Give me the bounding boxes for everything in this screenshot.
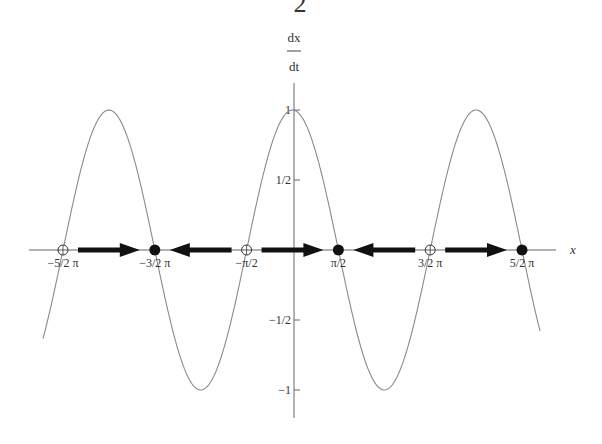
x-tick-label: −π/2 bbox=[236, 256, 258, 270]
header-fragment: 2 bbox=[294, 0, 307, 18]
y-axis-label-numerator: dx bbox=[288, 30, 302, 45]
x-tick-labels: −5/2 π−3/2 π−π/2π/23/2 π5/2 π bbox=[47, 256, 534, 270]
y-axis-label-denominator: dt bbox=[289, 59, 300, 74]
x-axis-label: x bbox=[569, 242, 576, 257]
flow-arrow-left-icon bbox=[353, 243, 415, 257]
flow-arrow-right-icon bbox=[262, 243, 324, 257]
stable-fixed-point-icon bbox=[517, 245, 528, 256]
y-tick-label: −1 bbox=[278, 383, 291, 397]
x-tick-label: 3/2 π bbox=[418, 256, 442, 270]
stable-fixed-point-icon bbox=[149, 245, 160, 256]
stable-fixed-point-icon bbox=[333, 245, 344, 256]
flow-arrow-right-icon bbox=[78, 243, 140, 257]
phase-portrait-chart: 2 dx dt x 11/2−1/2−1 −5/2 π−3/2 π−π/2π/2… bbox=[0, 0, 602, 444]
flow-arrow-right-icon bbox=[445, 243, 507, 257]
y-tick-label: −1/2 bbox=[269, 313, 291, 327]
y-tick-label: 1/2 bbox=[276, 173, 291, 187]
x-tick-label: 5/2 π bbox=[510, 256, 534, 270]
x-tick-label: −5/2 π bbox=[47, 256, 78, 270]
x-tick-label: π/2 bbox=[331, 256, 346, 270]
flow-arrow-left-icon bbox=[170, 243, 232, 257]
x-tick-label: −3/2 π bbox=[139, 256, 170, 270]
